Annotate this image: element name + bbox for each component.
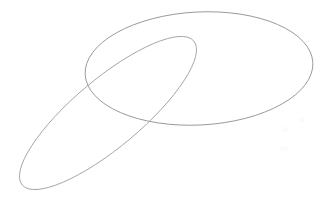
canvas-background <box>0 0 319 197</box>
ellipse-sketch-svg <box>0 0 319 197</box>
drawing-canvas <box>0 0 319 197</box>
